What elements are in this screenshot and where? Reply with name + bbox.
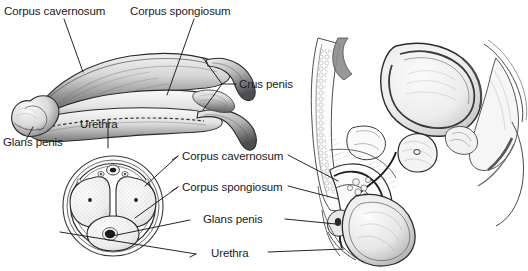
label-glans-penis-mid: Glans penis xyxy=(203,213,263,226)
label-corpus-cavernosum-top: Corpus cavernosum xyxy=(4,5,105,18)
sagittal-pelvis-artwork xyxy=(311,38,527,266)
label-corpus-spongiosum-mid: Corpus spongiosum xyxy=(182,181,283,194)
label-glans-penis-top: Glans penis xyxy=(3,136,63,149)
label-urethra-top: Urethra xyxy=(80,118,118,131)
anatomy-figure: Corpus cavernosum Corpus spongiosum Crus… xyxy=(0,0,528,271)
label-crus-penis: Crus penis xyxy=(239,78,293,91)
illustration-layer xyxy=(0,0,528,271)
label-corpus-spongiosum-top: Corpus spongiosum xyxy=(130,5,231,18)
label-urethra-mid: Urethra xyxy=(211,247,249,260)
label-corpus-cavernosum-mid: Corpus cavernosum xyxy=(182,150,283,163)
